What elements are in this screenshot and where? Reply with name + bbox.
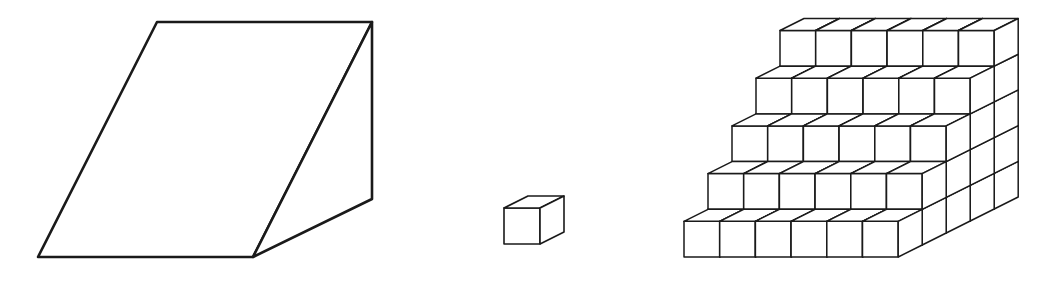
cube-front-face [851, 31, 887, 67]
cube-front-face [839, 126, 875, 162]
cube-front-face [887, 174, 923, 210]
cube-front-face [755, 221, 791, 257]
cube-front-face [780, 31, 816, 67]
cube-front-face [768, 126, 804, 162]
cube-front-face [720, 221, 756, 257]
cube-front-face [816, 31, 852, 67]
cube-front-face [792, 78, 828, 114]
cube-front-face [684, 221, 720, 257]
cube-front-face [791, 221, 827, 257]
cube-front-face [756, 78, 792, 114]
cube-front-face [887, 31, 923, 67]
cube-front-face [959, 31, 995, 67]
cube-front-face [732, 126, 768, 162]
cube-front-face [863, 78, 899, 114]
cube-front-face [923, 31, 959, 67]
cube-front-face [935, 78, 971, 114]
unit-cube [504, 196, 564, 244]
cube-staircase [684, 19, 1018, 258]
diagram-canvas [0, 0, 1054, 281]
cube-front-face [911, 126, 947, 162]
cube-front-face [744, 174, 780, 210]
cube-front-face [827, 221, 863, 257]
wedge-prism [38, 22, 372, 257]
cube-front-face [708, 174, 744, 210]
cube-front-face [875, 126, 911, 162]
cube-front-face [803, 126, 839, 162]
cube-front-face [863, 221, 899, 257]
cube-front-face [779, 174, 815, 210]
cube-front-face [899, 78, 935, 114]
cube-front-face [504, 208, 540, 244]
cube-front-face [815, 174, 851, 210]
cube-front-face [851, 174, 887, 210]
cube-front-face [827, 78, 863, 114]
